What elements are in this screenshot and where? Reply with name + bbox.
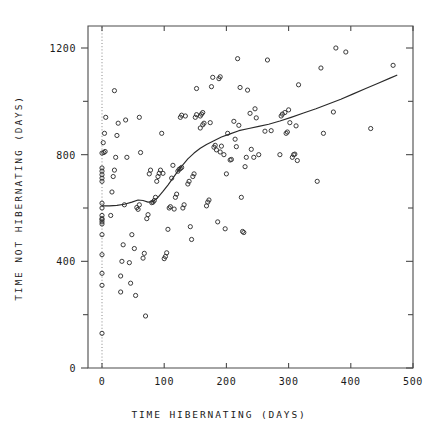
data-point [265, 58, 269, 62]
data-point [125, 155, 129, 159]
x-tick-label-200: 200 [216, 376, 236, 387]
data-point [119, 274, 123, 278]
data-point [295, 158, 299, 162]
data-point [127, 261, 131, 265]
data-point [141, 256, 145, 260]
data-point [269, 129, 273, 133]
data-point [248, 111, 252, 115]
figure-container: 0100200300400500 04008001200 TIME HIBERN… [0, 0, 438, 436]
data-point [102, 131, 106, 135]
data-point [208, 121, 212, 125]
data-point [171, 163, 175, 167]
data-point [331, 110, 335, 114]
x-axis-tick-labels: 0100200300400500 [99, 376, 423, 387]
data-point [238, 85, 242, 89]
y-tick-label-800: 800 [56, 150, 76, 161]
x-axis-label: TIME HIBERNATING (DAYS) [131, 409, 306, 420]
data-point [148, 168, 152, 172]
data-point [138, 150, 142, 154]
data-point [319, 66, 323, 70]
data-point [249, 147, 253, 151]
y-tick-label-1200: 1200 [50, 43, 76, 54]
series-observations [100, 46, 395, 336]
data-point [252, 155, 256, 159]
data-point [100, 233, 104, 237]
data-point [369, 126, 373, 130]
data-point [155, 179, 159, 183]
axes-frame [88, 26, 413, 368]
data-point [391, 63, 395, 67]
x-tick-label-400: 400 [341, 376, 361, 387]
data-point [189, 237, 193, 241]
data-point [111, 174, 115, 178]
data-point [110, 190, 114, 194]
trend-line-layer [102, 75, 397, 206]
data-point [219, 144, 223, 148]
data-point [222, 153, 226, 157]
data-point [294, 124, 298, 128]
data-point [194, 86, 198, 90]
data-point [160, 131, 164, 135]
data-point [133, 293, 137, 297]
data-point [121, 243, 125, 247]
data-point [287, 108, 291, 112]
data-point [119, 290, 123, 294]
data-point [344, 50, 348, 54]
data-points-layer [100, 46, 395, 336]
data-point [216, 220, 220, 224]
data-point [112, 89, 116, 93]
data-point [166, 227, 170, 231]
x-tick-label-500: 500 [403, 376, 423, 387]
data-point [296, 83, 300, 87]
data-point [233, 137, 237, 141]
data-point [257, 153, 261, 157]
y-tick-label-400: 400 [56, 256, 76, 267]
data-point [321, 131, 325, 135]
data-point [143, 314, 147, 318]
data-point [236, 57, 240, 61]
data-point [146, 213, 150, 217]
data-point [245, 88, 249, 92]
data-point [223, 227, 227, 231]
data-point [116, 121, 120, 125]
series-smoothed-trend [102, 75, 397, 206]
data-point [278, 153, 282, 157]
data-point [137, 203, 141, 207]
data-point [237, 123, 241, 127]
plot-frame [88, 26, 413, 368]
y-tick-label-0: 0 [69, 363, 76, 374]
data-point [188, 225, 192, 229]
data-point [120, 259, 124, 263]
data-point [254, 116, 258, 120]
x-tick-label-100: 100 [154, 376, 174, 387]
data-point [129, 281, 133, 285]
data-point [234, 145, 238, 149]
data-point [232, 119, 236, 123]
data-point [112, 168, 116, 172]
x-tick-label-0: 0 [99, 376, 106, 387]
data-point [209, 85, 213, 89]
y-axis-tick-labels: 04008001200 [50, 43, 76, 374]
data-point [334, 46, 338, 50]
data-point [124, 118, 128, 122]
scatter-plot: 0100200300400500 04008001200 TIME HIBERN… [0, 0, 438, 436]
data-point [253, 107, 257, 111]
data-point [109, 213, 113, 217]
y-axis-ticks [81, 48, 413, 368]
data-point [211, 75, 215, 79]
data-point [315, 179, 319, 183]
data-point [115, 133, 119, 137]
data-point [165, 251, 169, 255]
y-axis-label: TIME NOT HIBERNATING (DAYS) [13, 95, 24, 301]
data-point [132, 246, 136, 250]
data-point [288, 121, 292, 125]
data-point [137, 115, 141, 119]
data-point [104, 115, 108, 119]
data-point [239, 195, 243, 199]
data-point [142, 251, 146, 255]
data-point [130, 233, 134, 237]
x-axis-ticks [102, 26, 413, 368]
data-point [100, 271, 104, 275]
data-point [263, 129, 267, 133]
data-point [172, 207, 176, 211]
